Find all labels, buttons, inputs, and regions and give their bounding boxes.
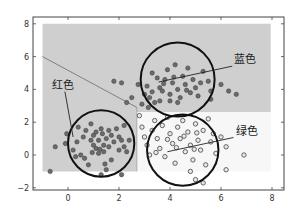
data-point — [140, 102, 144, 106]
data-point — [94, 130, 98, 134]
data-point — [100, 131, 104, 135]
data-point — [63, 141, 67, 145]
data-point — [193, 86, 197, 90]
data-point — [84, 128, 88, 132]
data-point — [188, 90, 192, 94]
data-point — [71, 148, 75, 152]
annotation-label: 红色 — [52, 78, 74, 92]
x-tick-label: 0 — [65, 194, 70, 203]
data-point — [168, 99, 172, 103]
data-point — [178, 95, 182, 99]
decision-regions — [43, 24, 271, 172]
data-point — [122, 123, 126, 127]
data-point — [193, 177, 197, 181]
y-tick-label: 8 — [24, 20, 29, 29]
y-tick-label: 6 — [24, 53, 29, 62]
data-point — [192, 147, 196, 151]
data-point — [75, 140, 79, 144]
data-point — [91, 143, 95, 147]
data-point — [117, 148, 121, 152]
data-point — [136, 82, 140, 86]
data-point — [188, 169, 192, 173]
data-point — [184, 88, 188, 92]
data-point — [142, 135, 146, 139]
data-point — [107, 145, 111, 149]
data-point — [183, 82, 187, 86]
data-point — [186, 66, 190, 70]
data-point — [109, 158, 113, 162]
data-point — [112, 140, 116, 144]
data-point — [234, 92, 238, 96]
data-point — [198, 81, 202, 85]
data-point — [104, 136, 108, 140]
data-point — [96, 138, 100, 142]
data-point — [168, 131, 172, 135]
data-point — [86, 163, 90, 167]
data-point — [153, 100, 157, 104]
data-point — [175, 125, 179, 129]
data-point — [163, 154, 167, 158]
data-point — [173, 63, 177, 67]
data-point — [173, 161, 177, 165]
y-tick-label: −2 — [17, 184, 29, 193]
y-tick-label: 4 — [24, 85, 29, 94]
data-point — [112, 79, 116, 83]
data-point — [53, 145, 57, 149]
data-point — [73, 154, 77, 158]
data-point — [170, 141, 174, 145]
x-tick-label: 8 — [269, 194, 274, 203]
data-point — [154, 150, 158, 154]
annotation-label: 绿色 — [236, 124, 258, 138]
data-point — [165, 68, 169, 72]
data-point — [103, 162, 107, 166]
data-point — [191, 158, 195, 162]
data-point — [140, 125, 144, 129]
data-point — [219, 135, 223, 139]
data-point — [124, 100, 128, 104]
scatter-chart: 红色蓝色绿色 02468 86420−2 — [0, 0, 304, 218]
data-point — [119, 81, 123, 85]
data-point — [165, 137, 169, 141]
annotation-label: 蓝色 — [234, 52, 256, 66]
data-point — [82, 156, 86, 160]
data-point — [90, 150, 94, 154]
data-point — [193, 122, 197, 126]
data-point — [161, 81, 165, 85]
data-point — [196, 138, 200, 142]
data-point — [109, 133, 113, 137]
data-point — [226, 89, 230, 93]
data-point — [79, 153, 83, 157]
data-point — [122, 145, 126, 149]
data-point — [158, 99, 162, 103]
x-tick-label: 2 — [116, 194, 121, 203]
data-point — [98, 147, 102, 151]
data-point — [198, 148, 202, 152]
data-point — [175, 87, 179, 91]
data-point — [89, 138, 93, 142]
data-point — [96, 151, 100, 155]
data-point — [168, 92, 172, 96]
data-point — [127, 138, 131, 142]
data-point — [114, 127, 118, 131]
data-point — [242, 153, 246, 157]
data-point — [48, 169, 52, 173]
data-point — [150, 90, 154, 94]
data-point — [170, 81, 174, 85]
data-point — [107, 128, 111, 132]
data-point — [160, 123, 164, 127]
data-point — [102, 150, 106, 154]
data-point — [117, 135, 121, 139]
data-point — [160, 89, 164, 93]
data-point — [81, 135, 85, 139]
data-point — [224, 168, 228, 172]
data-point — [224, 145, 228, 149]
data-point — [155, 76, 159, 80]
data-point — [145, 84, 149, 88]
data-point — [76, 125, 80, 129]
data-point — [147, 95, 151, 99]
data-point — [206, 79, 210, 83]
data-point — [130, 95, 134, 99]
data-point — [155, 136, 159, 140]
data-point — [99, 127, 103, 131]
data-point — [146, 105, 150, 109]
